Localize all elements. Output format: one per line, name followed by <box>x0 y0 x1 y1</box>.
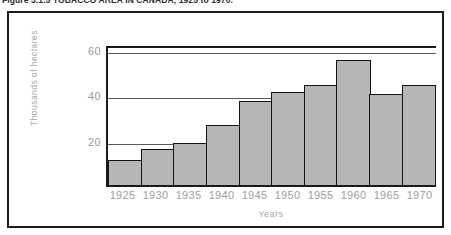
x-axis-tick-label: 1935 <box>172 189 205 205</box>
bar <box>206 125 240 185</box>
x-axis-tick-label: 1960 <box>337 189 370 205</box>
bar <box>402 85 436 185</box>
bar <box>369 94 403 185</box>
x-axis-tick-label: 1940 <box>205 189 238 205</box>
x-axis-tick-label: 1965 <box>370 189 403 205</box>
plot-area <box>106 46 436 187</box>
bar <box>271 92 305 185</box>
x-axis-tick-label: 1955 <box>304 189 337 205</box>
x-axis-tick-label: 1970 <box>403 189 436 205</box>
y-axis-tick-label: 20 <box>61 136 101 148</box>
x-axis-title: Years <box>106 209 436 219</box>
x-axis-tick-label: 1925 <box>106 189 139 205</box>
chart-frame: Thousands of hectares 204060 19251930193… <box>7 11 444 228</box>
bar <box>304 85 338 185</box>
y-axis-tick-label: 60 <box>61 45 101 57</box>
x-axis-tick-label: 1950 <box>271 189 304 205</box>
bar <box>141 149 175 185</box>
bar <box>336 60 370 185</box>
y-axis-tick-label: 40 <box>61 90 101 102</box>
bar <box>173 143 207 185</box>
y-axis-title: Thousands of hectares <box>29 8 39 148</box>
x-axis-tick-label: 1930 <box>139 189 172 205</box>
y-axis-tick-labels: 204060 <box>57 46 101 187</box>
bar <box>108 160 142 185</box>
bar <box>239 101 273 185</box>
figure-caption: Figure 3.1.5 TOBACCO AREA IN CANADA, 192… <box>2 0 233 5</box>
x-axis-tick-labels: 1925193019351940194519501955196019651970 <box>106 189 436 205</box>
bar-series <box>108 48 436 185</box>
x-axis-tick-label: 1945 <box>238 189 271 205</box>
